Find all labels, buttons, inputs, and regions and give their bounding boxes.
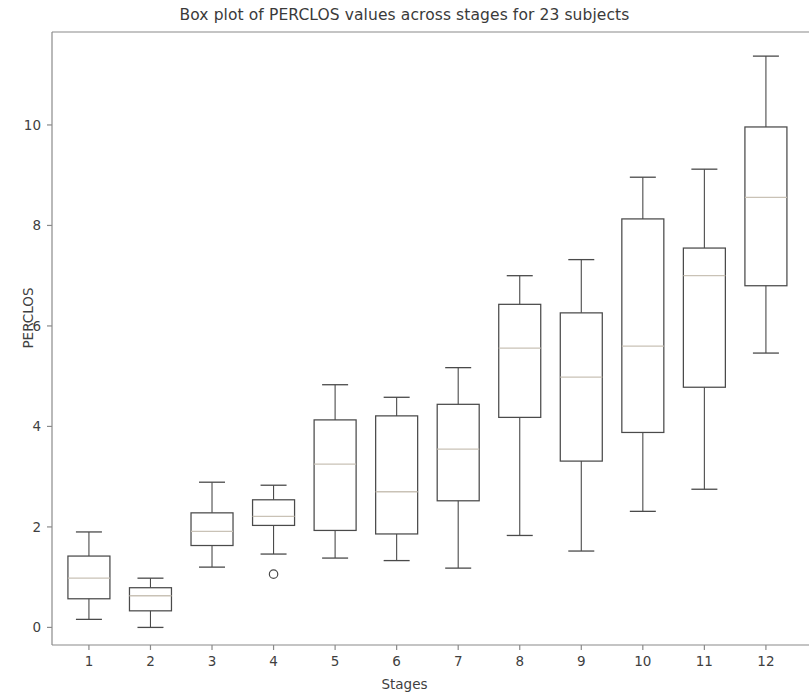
box-plot-series bbox=[68, 56, 787, 627]
box-plot-item bbox=[560, 260, 602, 551]
box-iqr bbox=[191, 513, 233, 546]
y-tick-label: 8 bbox=[32, 217, 41, 233]
y-tick-label: 10 bbox=[24, 117, 41, 133]
box-iqr bbox=[376, 416, 418, 534]
y-tick-label: 4 bbox=[32, 418, 41, 434]
box-plot-item bbox=[437, 368, 479, 568]
x-tick-label: 4 bbox=[269, 653, 278, 669]
x-tick-label: 10 bbox=[634, 653, 651, 669]
box-plot-figure: Box plot of PERCLOS values across stages… bbox=[0, 0, 809, 697]
y-tick-label: 0 bbox=[32, 619, 41, 635]
box-plot-item bbox=[622, 177, 664, 511]
outlier-point bbox=[269, 570, 277, 578]
box-iqr bbox=[560, 313, 602, 461]
x-tick-label: 11 bbox=[696, 653, 713, 669]
x-tick-label: 5 bbox=[331, 653, 340, 669]
y-axis-title: PERCLOS bbox=[20, 268, 36, 368]
x-tick-label: 12 bbox=[757, 653, 774, 669]
x-tick-label: 9 bbox=[577, 653, 586, 669]
box-iqr bbox=[622, 219, 664, 433]
box-iqr bbox=[253, 500, 295, 526]
box-plot-item bbox=[376, 397, 418, 560]
box-iqr bbox=[745, 127, 787, 286]
box-plot-item bbox=[314, 385, 356, 558]
plot-canvas: 0246810 123456789101112 bbox=[0, 0, 809, 697]
box-iqr bbox=[129, 588, 171, 611]
x-tick-label: 7 bbox=[454, 653, 463, 669]
x-tick-label: 2 bbox=[146, 653, 155, 669]
x-tick-label: 1 bbox=[85, 653, 94, 669]
box-iqr bbox=[437, 404, 479, 500]
box-plot-item bbox=[129, 578, 171, 627]
box-iqr bbox=[314, 420, 356, 531]
box-iqr bbox=[683, 248, 725, 387]
x-tick-label: 8 bbox=[515, 653, 524, 669]
box-plot-item bbox=[68, 532, 110, 619]
box-plot-item bbox=[191, 482, 233, 567]
box-plot-item bbox=[499, 276, 541, 536]
box-plot-item bbox=[745, 56, 787, 353]
box-plot-item bbox=[253, 485, 295, 578]
box-iqr bbox=[68, 556, 110, 599]
x-axis-ticks: 123456789101112 bbox=[85, 645, 775, 669]
y-tick-label: 2 bbox=[32, 519, 41, 535]
box-plot-item bbox=[683, 169, 725, 489]
box-iqr bbox=[499, 304, 541, 417]
x-axis-title: Stages bbox=[0, 676, 809, 692]
x-tick-label: 6 bbox=[392, 653, 401, 669]
axes-frame bbox=[52, 32, 809, 645]
y-axis-ticks: 0246810 bbox=[24, 117, 52, 635]
x-tick-label: 3 bbox=[208, 653, 217, 669]
